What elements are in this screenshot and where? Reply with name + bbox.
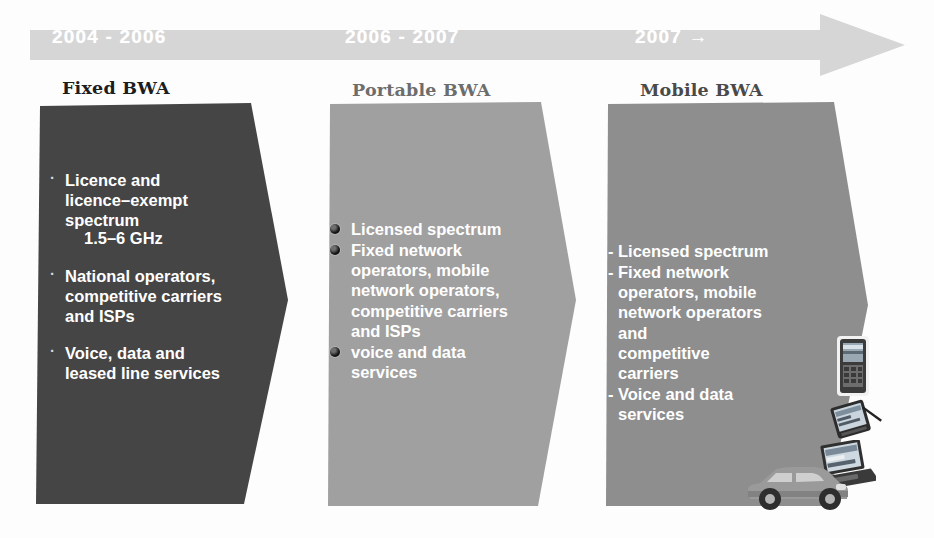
dash-bullet-icon: - [608, 262, 617, 282]
bullet-list-fixed-bwa: · Licence and licence–exempt spectrum 1.… [50, 170, 266, 400]
diagram-canvas: 2004 - 2006 2006 - 2007 2007 → Fixed BWA… [0, 0, 934, 538]
circle-bullet-icon [330, 224, 349, 234]
list-item: Licensed spectrum [330, 219, 560, 239]
mobile-phone-image [836, 335, 870, 397]
list-item: · National operators, competitive carrie… [50, 266, 266, 326]
list-item: · Voice, data and leased line services [50, 343, 266, 383]
list-item-label: National operators, competitive carriers… [65, 266, 266, 326]
list-item-label: Fixed network operators, mobile network … [349, 240, 560, 341]
bullet-list-mobile-bwa: - Licensed spectrum - Fixed network oper… [608, 241, 804, 425]
list-item-label: Licensed spectrum [349, 219, 560, 239]
bullet-list-portable-bwa: Licensed spectrum Fixed network operator… [330, 219, 560, 383]
circle-bullet-icon [330, 245, 349, 255]
list-item: - Voice and data services [608, 384, 804, 424]
dot-bullet-icon: · [50, 170, 65, 187]
list-item-label: voice and data services [349, 342, 560, 382]
stage-heading-mobile-bwa: Mobile BWA [640, 80, 763, 100]
list-item-label: Licensed spectrum [617, 241, 804, 261]
dot-bullet-icon: · [50, 266, 65, 283]
timeline-period-2: 2006 - 2007 [345, 26, 460, 48]
list-item: - Fixed network operators, mobile networ… [608, 262, 804, 383]
car-image [740, 455, 852, 517]
stage-heading-portable-bwa: Portable BWA [352, 80, 490, 100]
list-item: - Licensed spectrum [608, 241, 804, 261]
list-item-sublabel: 1.5–6 GHz [50, 228, 266, 248]
dash-bullet-icon: - [608, 384, 617, 404]
list-item: · Licence and licence–exempt spectrum [50, 170, 266, 230]
stage-heading-fixed-bwa: Fixed BWA [62, 78, 170, 98]
list-item: voice and data services [330, 342, 560, 382]
list-item-label: Fixed network operators, mobile network … [617, 262, 804, 383]
list-item-label: Voice and data services [617, 384, 804, 424]
pda-handheld-image [828, 398, 882, 442]
timeline-period-3: 2007 → [635, 26, 709, 48]
dot-bullet-icon: · [50, 343, 65, 360]
circle-bullet-icon [330, 347, 349, 357]
list-item-label: Voice, data and leased line services [65, 343, 266, 383]
list-item: Fixed network operators, mobile network … [330, 240, 560, 341]
timeline-period-1: 2004 - 2006 [52, 26, 167, 48]
dash-bullet-icon: - [608, 241, 617, 261]
list-item-label: Licence and licence–exempt spectrum [65, 170, 266, 230]
